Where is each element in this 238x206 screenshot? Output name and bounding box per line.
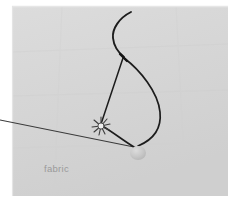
bead — [130, 146, 146, 160]
fabric-label: fabric — [44, 163, 69, 174]
stitch-diagram-svg: fabric — [0, 0, 238, 206]
figure-root: fabric — [0, 0, 238, 206]
